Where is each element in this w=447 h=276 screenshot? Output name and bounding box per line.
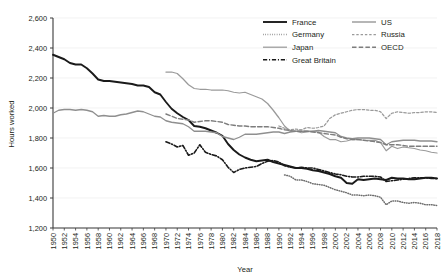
y-tick-label: 2,200 (29, 74, 48, 83)
x-tick-label: 1992 (286, 233, 295, 249)
x-tick-label: 1984 (241, 233, 250, 249)
legend-label: Great Britain (292, 56, 336, 65)
legend-item-france[interactable]: France (263, 18, 316, 27)
data-series-layer (53, 55, 437, 206)
x-tick-label: 1986 (252, 233, 261, 249)
x-tick-label: 1998 (320, 233, 329, 249)
y-tick-label: 2,600 (29, 14, 48, 23)
x-tick-label: 1988 (263, 233, 272, 249)
x-tick-label: 1978 (207, 233, 216, 249)
x-tick-label: 1968 (150, 233, 159, 249)
x-tick-label: 1970 (162, 233, 171, 249)
y-tick-label: 2,400 (29, 44, 48, 53)
x-tick-label: 1956 (83, 233, 92, 249)
x-tick-label: 2014 (410, 233, 419, 249)
legend-item-us[interactable]: US (352, 18, 392, 27)
legend-label: Japan (292, 43, 313, 52)
x-tick-label: 2006 (365, 233, 374, 249)
x-tick-label: 1952 (60, 233, 69, 249)
legend-label: Russia (381, 30, 405, 39)
x-tick-label: 1980 (218, 233, 227, 249)
x-axis-title: Year (237, 265, 253, 274)
y-tick-label: 2,000 (29, 104, 48, 113)
x-tick-label: 2012 (399, 233, 408, 249)
legend-label: France (292, 18, 316, 27)
x-tick-label: 1974 (184, 233, 193, 249)
legend-label: US (381, 18, 392, 27)
y-tick-label: 1,200 (29, 224, 48, 233)
x-tick-label: 1958 (94, 233, 103, 249)
x-tick-label: 1962 (116, 233, 125, 249)
x-tick-label: 1982 (229, 233, 238, 249)
series-line-russia (279, 110, 437, 130)
x-tick-label: 2010 (388, 233, 397, 249)
legend-item-oecd[interactable]: OECD (352, 43, 404, 52)
x-tick-label: 1950 (49, 233, 58, 249)
x-tick-label: 1954 (71, 233, 80, 249)
x-tick-label: 1996 (308, 233, 317, 249)
y-axis-ticks: 1,2001,4001,6001,8002,0002,2002,4002,600 (29, 14, 54, 233)
x-tick-label: 1964 (128, 233, 137, 249)
chart-legend: FranceGermanyJapanGreat BritainUSRussiaO… (263, 18, 405, 65)
series-line-france (53, 55, 437, 184)
x-axis-ticks: 1950195219541956195819601962196419661968… (49, 228, 442, 249)
x-tick-label: 1976 (196, 233, 205, 249)
x-tick-label: 1972 (173, 233, 182, 249)
chart-canvas: 1,2001,4001,6001,8002,0002,2002,4002,600… (0, 0, 447, 276)
legend-label: Germany (292, 30, 324, 39)
y-axis-title: Hours worked (7, 101, 16, 148)
legend-item-great-britain[interactable]: Great Britain (263, 56, 336, 65)
x-tick-label: 2002 (342, 233, 351, 249)
x-tick-label: 1966 (139, 233, 148, 249)
x-tick-label: 1994 (297, 233, 306, 249)
x-tick-label: 2004 (354, 233, 363, 249)
legend-item-japan[interactable]: Japan (263, 43, 313, 52)
x-tick-label: 2018 (433, 233, 442, 249)
hours-worked-line-chart: 1,2001,4001,6001,8002,0002,2002,4002,600… (0, 0, 447, 276)
y-tick-label: 1,600 (29, 164, 48, 173)
series-line-us (53, 110, 437, 145)
x-tick-label: 2008 (376, 233, 385, 249)
y-tick-label: 1,400 (29, 194, 48, 203)
x-tick-label: 2016 (421, 233, 430, 249)
legend-item-germany[interactable]: Germany (263, 30, 324, 39)
x-tick-label: 2000 (331, 233, 340, 249)
x-tick-label: 1960 (105, 233, 114, 249)
legend-item-russia[interactable]: Russia (352, 30, 405, 39)
x-tick-label: 1990 (275, 233, 284, 249)
y-tick-label: 1,800 (29, 134, 48, 143)
legend-label: OECD (381, 43, 404, 52)
